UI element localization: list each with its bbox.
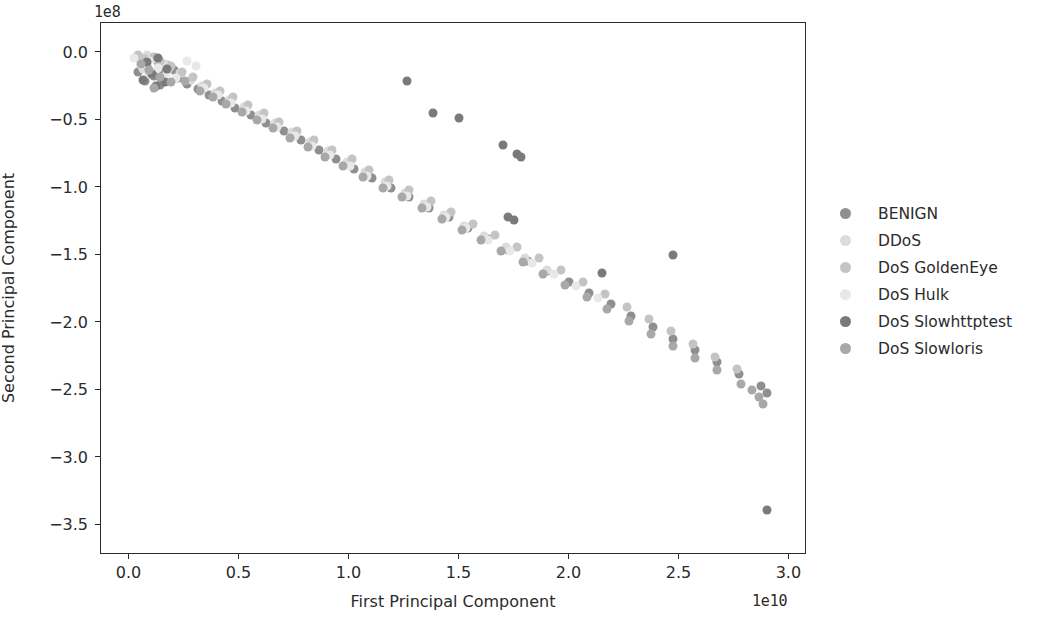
data-point (444, 213, 453, 222)
data-point (539, 270, 548, 279)
data-point (534, 253, 543, 262)
data-point (378, 183, 387, 192)
data-point (490, 230, 499, 239)
data-point (173, 74, 182, 83)
data-point (418, 203, 427, 212)
legend-item-dos-slowloris[interactable]: DoS Slowloris (826, 335, 1051, 362)
x-tick-label: 1.5 (446, 563, 471, 582)
legend-item-label: BENIGN (878, 205, 938, 223)
data-point (275, 117, 284, 126)
data-point (149, 83, 158, 92)
data-point (477, 236, 486, 245)
y-tick-mark (95, 456, 100, 457)
data-point (358, 172, 367, 181)
y-tick-label: −1.5 (4, 245, 88, 264)
plot-area (100, 22, 806, 554)
data-point (279, 127, 288, 136)
data-point (158, 64, 167, 73)
x-tick-mark (568, 554, 569, 559)
data-point (261, 118, 270, 127)
data-point (147, 54, 156, 63)
data-point (147, 70, 156, 79)
data-point (710, 352, 719, 361)
legend-item-dos-slowhttptest[interactable]: DoS Slowhttptest (826, 308, 1051, 335)
data-point (759, 399, 768, 408)
data-point (292, 127, 301, 136)
data-point (143, 62, 152, 71)
legend-item-dos-goldeneye[interactable]: DoS GoldenEye (826, 254, 1051, 281)
legend-item-dos-hulk[interactable]: DoS Hulk (826, 281, 1051, 308)
data-point (171, 74, 180, 83)
data-point (424, 203, 433, 212)
data-point (338, 162, 347, 171)
data-point (303, 143, 312, 152)
data-point (499, 140, 508, 149)
x-tick-mark (348, 554, 349, 559)
data-point (668, 334, 677, 343)
data-point (259, 109, 268, 118)
data-point (572, 282, 581, 291)
data-point (446, 208, 455, 217)
data-point (484, 235, 493, 244)
data-point (211, 89, 220, 98)
data-point (195, 86, 204, 95)
data-point (732, 364, 741, 373)
data-point (756, 382, 765, 391)
data-point (189, 73, 198, 82)
data-point (402, 191, 411, 200)
data-point (305, 137, 314, 146)
data-point (288, 128, 297, 137)
data-point (503, 213, 512, 222)
y-axis-title: Second Principal Component (0, 173, 18, 403)
data-point (349, 164, 358, 173)
data-point (332, 155, 341, 164)
legend-marker-icon (840, 316, 851, 327)
data-point (213, 90, 222, 99)
data-point (239, 102, 248, 111)
data-point (237, 108, 246, 117)
data-point (138, 55, 147, 64)
data-point (690, 353, 699, 362)
x-tick-mark (238, 554, 239, 559)
y-tick-mark (95, 389, 100, 390)
data-point (297, 136, 306, 145)
data-point (290, 132, 299, 141)
data-point (136, 60, 145, 69)
data-point (598, 268, 607, 277)
data-point (138, 75, 147, 84)
data-point (347, 155, 356, 164)
data-point (510, 216, 519, 225)
data-point (607, 299, 616, 308)
data-point (624, 317, 633, 326)
data-point (523, 256, 532, 265)
data-point (182, 79, 191, 88)
data-point (521, 253, 530, 262)
y-tick-label: −2.5 (4, 380, 88, 399)
data-point (140, 77, 149, 86)
data-point (151, 82, 160, 91)
data-point (646, 329, 655, 338)
data-point (129, 54, 138, 63)
y-tick-label: −3.5 (4, 515, 88, 534)
legend-item-label: DoS GoldenEye (878, 259, 998, 277)
data-point (310, 136, 319, 145)
data-point (459, 221, 468, 230)
data-point (528, 259, 537, 268)
x-tick-mark (128, 554, 129, 559)
data-point (193, 85, 202, 94)
data-point (565, 278, 574, 287)
data-point (688, 340, 697, 349)
data-point (712, 366, 721, 375)
data-point (187, 75, 196, 84)
data-point (468, 220, 477, 229)
legend-item-benign[interactable]: BENIGN (826, 200, 1051, 227)
data-point (422, 202, 431, 211)
data-point (400, 189, 409, 198)
x-tick-label: 2.5 (666, 563, 691, 582)
x-tick-label: 1.0 (336, 563, 361, 582)
data-point (272, 122, 281, 131)
data-point (690, 345, 699, 354)
data-point (429, 109, 438, 118)
data-point (244, 101, 253, 110)
legend-item-ddos[interactable]: DDoS (826, 227, 1051, 254)
